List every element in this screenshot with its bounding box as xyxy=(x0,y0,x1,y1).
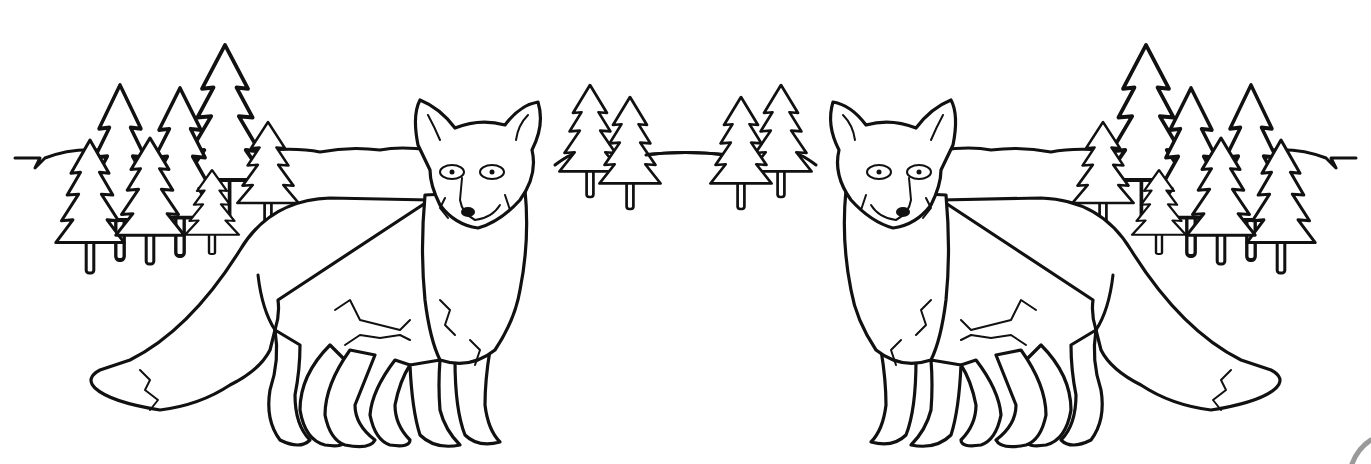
left-half xyxy=(15,45,725,447)
right-half-mirrored xyxy=(646,45,1356,447)
corner-mark xyxy=(1352,440,1371,464)
fox-illustration xyxy=(0,0,1371,464)
